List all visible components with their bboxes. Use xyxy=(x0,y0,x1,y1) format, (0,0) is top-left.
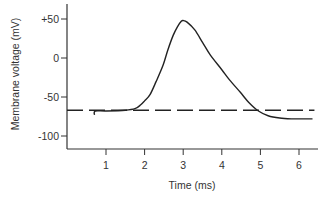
y-tick-label: 0 xyxy=(53,52,59,64)
y-tick-label: -100 xyxy=(38,130,59,142)
x-ticks: 123456 xyxy=(103,149,302,171)
x-tick-label: 2 xyxy=(142,159,148,171)
y-tick-label: -50 xyxy=(44,91,59,103)
x-axis-label: Time (ms) xyxy=(169,179,216,191)
series-group xyxy=(67,20,314,118)
y-ticks: +500-50-100 xyxy=(38,13,67,142)
x-tick-label: 6 xyxy=(296,159,302,171)
action-potential-chart: +500-50-100 123456 Membrane voltage (mV)… xyxy=(0,0,323,204)
action-potential-curve xyxy=(94,20,312,118)
x-tick-label: 1 xyxy=(103,159,109,171)
y-tick-label: +50 xyxy=(41,13,59,25)
x-tick-label: 5 xyxy=(257,159,263,171)
y-axis-label: Membrane voltage (mV) xyxy=(9,18,21,131)
x-tick-label: 3 xyxy=(180,159,186,171)
x-tick-label: 4 xyxy=(219,159,225,171)
